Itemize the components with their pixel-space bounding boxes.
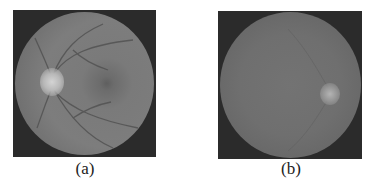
caption-a: (a) (55, 159, 115, 179)
retina-vessels-b (218, 11, 362, 159)
figure-panel-b (218, 11, 362, 159)
optic-disc-a (40, 68, 64, 96)
figure-panel-a (13, 10, 156, 157)
optic-disc-b (320, 83, 340, 105)
retina-vessels-a (13, 10, 156, 157)
caption-b: (b) (261, 159, 321, 179)
